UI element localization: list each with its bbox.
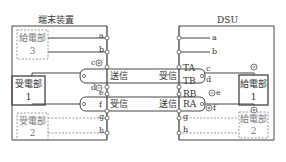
feed-unit-3-number: 3 [17,47,48,56]
lower-pair-left-label: 受信 [110,100,128,109]
dsu-terminal-c: c [206,65,210,73]
dsu-terminal-g: g [183,113,188,121]
left-terminal-e: e [99,89,104,97]
receive-unit-1-number: 1 [12,93,45,102]
left-terminal-a: a [99,32,104,40]
terminal-device-title: 端末装置 [38,16,74,25]
upper-pair-left-label: 送信 [110,72,128,81]
receive-unit-2-number: 2 [17,129,48,138]
dsu-feed-unit-2-label: 給電部 [239,115,268,124]
dsu-feed-unit-1-label: 給電部 [239,80,268,89]
dsu-terminal-e: e [216,89,221,97]
dsu-terminal-b: b [212,48,217,56]
pin-tb: TB [183,77,196,86]
left-terminal-b: b [99,46,104,54]
lower-pair-right-label: 送信 [159,100,177,109]
receive-unit-1-label: 受電部 [12,80,45,89]
dsu-terminal-d: d [206,76,211,84]
upper-pair-right-label: 受信 [159,72,177,81]
receive-unit-2-label: 受電部 [17,117,48,126]
dsu-terminal-a: a [212,34,217,42]
dsu-terminal-f: f [213,104,216,112]
left-terminal-c: c [91,59,95,67]
left-terminal-d: d [91,84,96,92]
dsu-title: DSU [217,16,238,25]
dsu-feed-unit-1-number: 1 [239,93,268,102]
feed-unit-3-label: 給電部 [17,34,48,43]
left-terminal-f: f [99,101,102,109]
dsu-terminal-h: h [183,126,188,134]
pin-ta: TA [183,64,195,73]
left-terminal-h: h [99,127,104,135]
dsu-feed-unit-2-number: 2 [239,127,268,136]
pin-rb: RB [183,90,196,99]
pin-ra: RA [183,100,196,109]
left-terminal-g: g [99,113,104,121]
